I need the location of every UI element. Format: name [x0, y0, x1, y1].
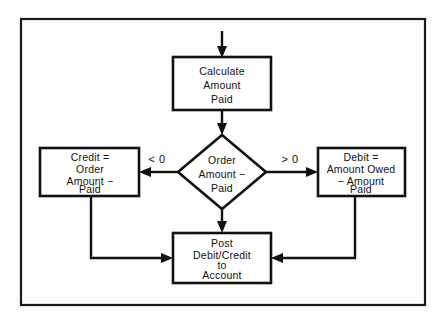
- node-post-debit-credit-to-account[interactable]: Post Debit/Credit to Account: [173, 233, 271, 283]
- calculate-line-3: Paid: [211, 93, 233, 105]
- arrowhead-icon: [271, 253, 283, 263]
- flowchart-figure: Calculate Amount Paid Order Amount − Pai…: [0, 0, 443, 322]
- debit-line-4: Paid: [350, 183, 372, 195]
- debit-line-1: Debit =: [344, 151, 379, 163]
- edge-decision-to-debit: [266, 167, 318, 177]
- credit-line-4: Paid: [79, 183, 101, 195]
- arrowhead-icon: [161, 253, 173, 263]
- edge-credit-to-post: [91, 196, 173, 263]
- debit-line-2: Amount Owed: [327, 163, 396, 175]
- post-line-1: Post: [211, 237, 233, 249]
- credit-line-1: Credit =: [71, 151, 110, 163]
- credit-line-2: Order: [76, 163, 104, 175]
- decision-line-2: Amount −: [199, 168, 246, 180]
- branch-label-less-than-zero: < 0: [148, 153, 165, 165]
- flowchart-canvas: Calculate Amount Paid Order Amount − Pai…: [0, 0, 443, 322]
- edge-decision-to-credit: [139, 167, 178, 177]
- branch-label-greater-than-zero: > 0: [281, 153, 298, 165]
- arrowhead-icon: [139, 167, 151, 177]
- decision-line-1: Order: [208, 154, 236, 166]
- node-calculate-amount-paid[interactable]: Calculate Amount Paid: [173, 57, 271, 110]
- calculate-line-1: Calculate: [199, 65, 245, 77]
- edge-decision-to-post: [217, 209, 227, 233]
- arrowhead-icon: [217, 123, 227, 135]
- node-debit-amount-owed-minus-amount-paid[interactable]: Debit = Amount Owed − Amount Paid: [318, 148, 405, 196]
- arrowhead-icon: [217, 221, 227, 233]
- edge-debit-to-post: [271, 196, 355, 263]
- node-credit-order-amount-minus-paid[interactable]: Credit = Order Amount − Paid: [40, 148, 139, 196]
- post-line-4: Account: [202, 269, 241, 281]
- arrowhead-icon: [306, 167, 318, 177]
- edge-calculate-to-decision: [217, 110, 227, 135]
- decision-line-3: Paid: [211, 182, 233, 194]
- node-order-amount-minus-paid-decision[interactable]: Order Amount − Paid: [178, 135, 266, 209]
- edge-entry: [217, 31, 227, 58]
- calculate-line-2: Amount: [203, 79, 240, 91]
